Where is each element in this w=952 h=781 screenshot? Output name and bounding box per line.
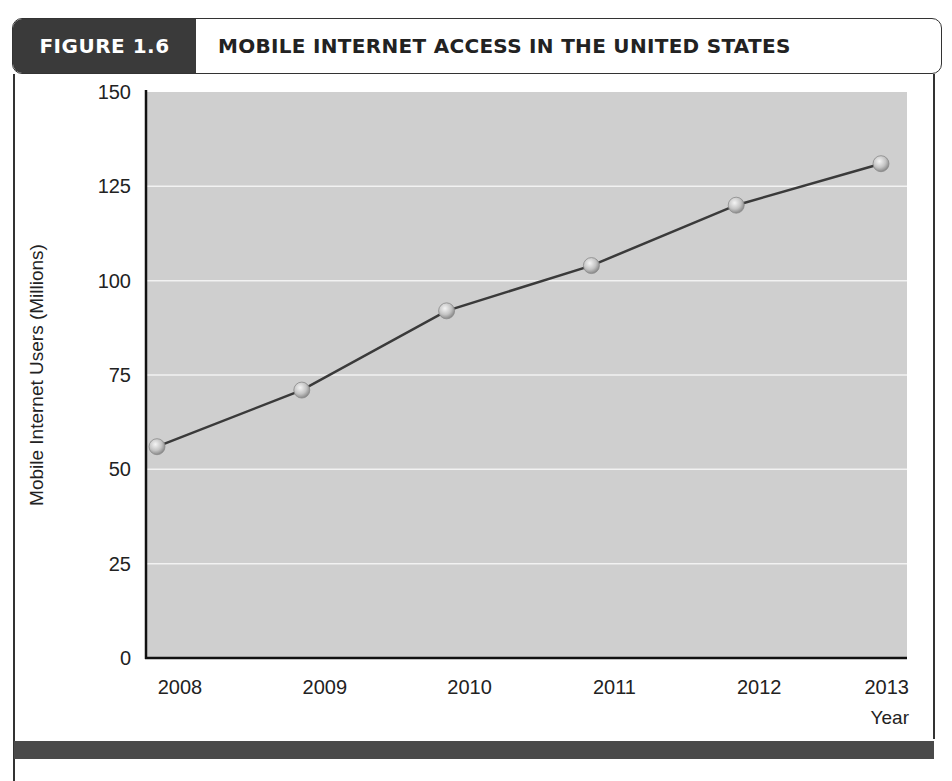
line-chart: 0255075100125150 20082009201020112012201…	[0, 0, 952, 781]
x-tick-labels: 200820092010201120122013	[158, 676, 909, 698]
footer-bar	[14, 741, 934, 759]
x-tick-label: 2009	[303, 676, 348, 698]
x-tick-label: 2013	[865, 676, 910, 698]
data-point-marker	[583, 258, 599, 274]
y-tick-label: 100	[98, 270, 131, 292]
x-axis-title: Year	[871, 707, 910, 728]
data-point-marker	[728, 197, 744, 213]
y-tick-label: 150	[98, 81, 131, 103]
y-tick-label: 50	[109, 458, 131, 480]
y-tick-label: 0	[120, 647, 131, 669]
x-tick-label: 2008	[158, 676, 203, 698]
y-tick-labels: 0255075100125150	[98, 81, 131, 669]
y-axis-title: Mobile Internet Users (Millions)	[26, 244, 47, 506]
y-tick-label: 125	[98, 175, 131, 197]
data-point-marker	[149, 439, 165, 455]
data-point-marker	[439, 303, 455, 319]
y-tick-label: 25	[109, 553, 131, 575]
x-tick-label: 2010	[447, 676, 492, 698]
data-point-marker	[294, 382, 310, 398]
x-tick-label: 2011	[593, 676, 636, 698]
y-tick-label: 75	[109, 364, 131, 386]
data-point-marker	[873, 156, 889, 172]
x-tick-label: 2012	[737, 676, 782, 698]
